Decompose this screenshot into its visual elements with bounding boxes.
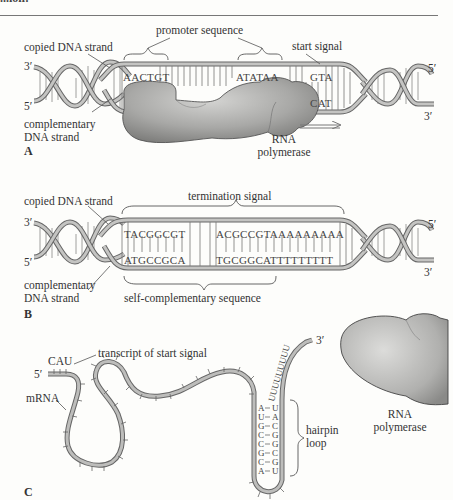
end-5-left-a: 5′ (24, 100, 32, 112)
copied-strand-label-b: copied DNA strand (24, 195, 113, 208)
seq-tacggcgt: TACGGCGT (124, 228, 185, 240)
svg-text:U: U (272, 466, 279, 476)
end-3-mrna: 3′ (316, 334, 324, 346)
seq-tgcggcattt: TGCGGCATTTTTTTTT (216, 254, 333, 266)
mrna-ticks (54, 353, 284, 499)
end-5-right-b: 5′ (428, 218, 436, 230)
seq-gta: GTA (310, 71, 333, 83)
mrna-label: mRNA (26, 392, 60, 404)
complementary-label-a-1: complementary (24, 118, 96, 131)
cau-label: CAU (48, 355, 73, 367)
right-helix-b (362, 222, 434, 260)
promoter-brace-right (238, 48, 282, 60)
end-5-left-b: 5′ (24, 256, 32, 268)
seq-atgccgca: ATGCCGCA (124, 254, 186, 266)
end-5-right-a: 5′ (428, 62, 436, 74)
rna-polymerase-label-c-1: RNA (388, 408, 413, 420)
rna-polymerase-label-a-1: RNA (272, 133, 297, 145)
rna-polymerase-label-c-2: polymerase (373, 421, 426, 434)
termination-signal-label: termination signal (188, 190, 271, 203)
right-helix-a (362, 66, 434, 104)
left-helix-a (34, 62, 130, 108)
panel-a: promoter sequence copied DNA strand star… (24, 24, 436, 159)
self-complementary-label: self-complementary sequence (124, 292, 261, 305)
seq-cat: CAT (310, 97, 332, 109)
hairpin-label-1: hairpin (306, 424, 339, 437)
hairpin-bases: A U G C C G C A U A C G G C G U (258, 403, 279, 476)
hairpin-label-2: loop (306, 437, 327, 450)
panel-b-label: B (24, 307, 32, 321)
end-3-right-a: 3′ (424, 110, 432, 122)
self-complementary-brace (124, 276, 276, 290)
panel-a-label: A (24, 144, 33, 158)
hairpin-brace (290, 400, 304, 476)
seq-aactgt: AACTGT (123, 71, 169, 83)
promoter-brace-left (124, 48, 168, 60)
poly-u-tail: UUUUUUUUU (266, 343, 292, 402)
seq-acgccgtaaa: ACGCCGTAAAAAAAAA (216, 228, 344, 240)
copied-strand-label-a: copied DNA strand (24, 41, 113, 54)
complementary-label-a-2: DNA strand (24, 131, 80, 143)
transcription-diagram: promoter sequence copied DNA strand star… (0, 0, 453, 500)
end-3-left-a: 3′ (24, 60, 32, 72)
transcript-start-signal-label: transcript of start signal (98, 347, 207, 360)
svg-text:A: A (258, 466, 265, 476)
termination-brace (122, 200, 344, 214)
rna-polymerase-c (341, 314, 448, 405)
panel-b: copied DNA strand termination signal TAC… (24, 190, 436, 321)
end-3-left-b: 3′ (24, 216, 32, 228)
complementary-label-b-2: DNA strand (24, 292, 80, 304)
complementary-label-b-1: complementary (24, 279, 96, 292)
end-3-right-b: 3′ (424, 266, 432, 278)
panel-c: A U G C C G C A U A C G G C G U UUUUUUUU… (24, 314, 448, 499)
panel-c-label: C (24, 485, 33, 499)
start-signal-label: start signal (292, 40, 342, 53)
end-5-mrna: 5′ (34, 368, 42, 380)
rna-polymerase-label-a-2: polymerase (257, 146, 310, 159)
promoter-sequence-label: promoter sequence (156, 24, 243, 37)
seq-atataa: ATATAA (236, 71, 279, 83)
